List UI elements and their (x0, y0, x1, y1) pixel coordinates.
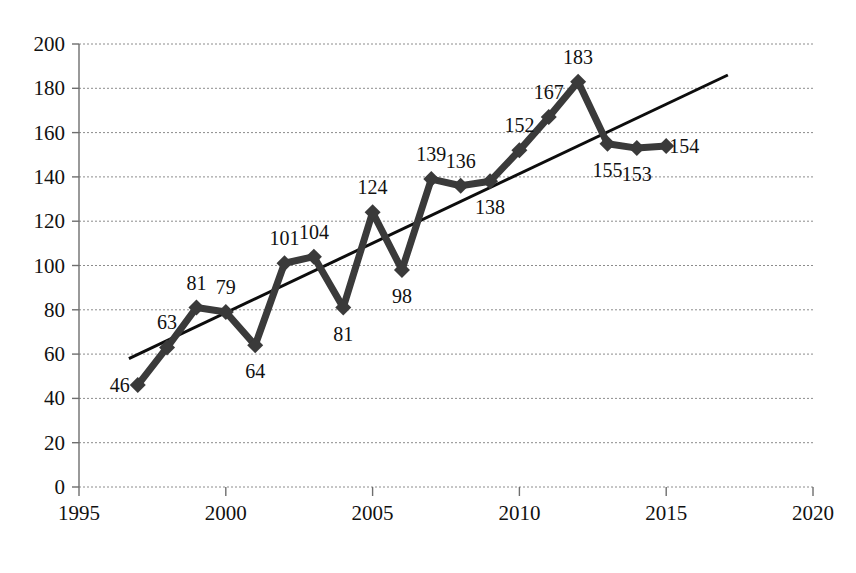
data-point-label-2010: 152 (504, 114, 534, 136)
x-tick-label-2010: 2010 (498, 501, 540, 525)
y-tick-label-0: 0 (55, 475, 66, 499)
y-tick-label-100: 100 (34, 254, 66, 278)
chart-container: 020406080100120140160180200 199520002005… (0, 0, 856, 573)
y-tick-label-40: 40 (44, 386, 65, 410)
y-tick-label-160: 160 (34, 121, 66, 145)
x-tick-label-1995: 1995 (58, 501, 100, 525)
data-point-label-2001: 64 (245, 360, 265, 382)
data-point-label-2011: 167 (534, 81, 564, 103)
data-point-label-1999: 81 (186, 272, 206, 294)
data-point-label-1998: 63 (157, 311, 177, 333)
x-tick-label-2005: 2005 (352, 501, 394, 525)
data-point-label-2012: 183 (563, 46, 593, 68)
y-tick-label-60: 60 (44, 342, 65, 366)
x-tick-label-2000: 2000 (205, 501, 247, 525)
y-tick-label-180: 180 (34, 76, 66, 100)
data-point-label-1997: 46 (110, 374, 130, 396)
y-tick-label-20: 20 (44, 431, 65, 455)
line-chart: 020406080100120140160180200 199520002005… (0, 0, 856, 573)
y-tick-label-200: 200 (34, 32, 66, 56)
y-tick-label-140: 140 (34, 165, 66, 189)
data-point-label-2009: 138 (475, 196, 505, 218)
y-tick-label-120: 120 (34, 209, 66, 233)
data-point-label-2006: 98 (392, 285, 412, 307)
data-point-label-2014: 153 (622, 163, 652, 185)
data-point-label-2008: 136 (446, 150, 476, 172)
data-point-label-2003: 104 (299, 221, 329, 243)
x-tick-label-2015: 2015 (645, 501, 687, 525)
data-point-label-2007: 139 (416, 143, 446, 165)
data-point-label-2002: 101 (270, 227, 300, 249)
x-tick-label-2020: 2020 (792, 501, 834, 525)
data-point-label-2000: 79 (216, 276, 236, 298)
data-point-label-2005: 124 (358, 176, 388, 198)
y-tick-label-80: 80 (44, 298, 65, 322)
data-point-label-2015: 154 (669, 135, 699, 157)
data-point-label-2013: 155 (592, 159, 622, 181)
data-point-label-2004: 81 (333, 323, 353, 345)
